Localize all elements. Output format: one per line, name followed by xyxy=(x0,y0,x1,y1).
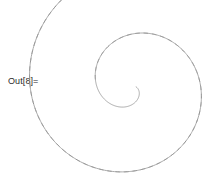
spiral-plot-graphic xyxy=(0,0,223,174)
solid-spiral-curve xyxy=(0,0,223,174)
dashed-spiral-curve xyxy=(0,0,223,174)
spiral-svg xyxy=(0,0,223,174)
notebook-output-cell: Out[8]= xyxy=(0,0,223,174)
